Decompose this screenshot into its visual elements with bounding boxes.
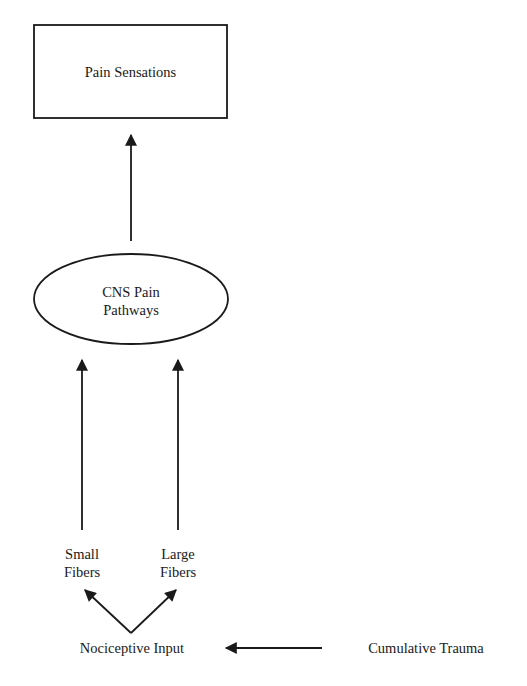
arrow-nociceptive-to-small-fibers (85, 590, 131, 633)
nociceptive-input-label: Nociceptive Input (60, 639, 204, 657)
cumulative-trauma-label: Cumulative Trauma (346, 639, 506, 657)
small-fibers-label-line2: Fibers (42, 563, 122, 581)
small-fibers-label-line1: Small (42, 545, 122, 563)
large-fibers-label-line2: Fibers (138, 563, 218, 581)
cns-pain-label-line2: Pathways (34, 301, 228, 319)
large-fibers-label-line1: Large (138, 545, 218, 563)
pain-sensations-label: Pain Sensations (34, 63, 227, 81)
cns-pain-label-line1: CNS Pain (34, 283, 228, 301)
diagram-canvas (0, 0, 527, 686)
arrow-nociceptive-to-large-fibers (131, 590, 176, 633)
